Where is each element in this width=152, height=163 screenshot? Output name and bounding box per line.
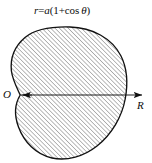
figure-canvas (0, 0, 152, 163)
equation-label: r=a(1+cos θ) (34, 5, 90, 16)
polar-axis-label: R (137, 100, 144, 111)
cardioid-hatched-region (11, 27, 126, 159)
origin-label: O (3, 89, 11, 100)
cardioid-figure: r=a(1+cos θ) O R (0, 0, 152, 163)
